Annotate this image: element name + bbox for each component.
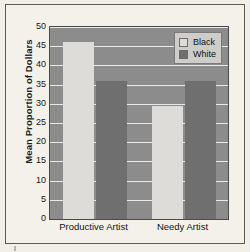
chart-figure: Mean Proportion of Dollars 0510152025303… [0, 0, 250, 252]
plot-area: BlackWhite [49, 26, 229, 220]
x-axis-tick-label: Needy Artist [157, 221, 208, 232]
y-axis-tick-label: 35 [22, 79, 46, 88]
legend-item-black: Black [179, 36, 216, 48]
bar-white-1 [185, 81, 216, 219]
chart-legend: BlackWhite [174, 32, 222, 64]
x-axis-tick-label: Productive Artist [59, 221, 128, 232]
y-axis-tick-label: 30 [22, 98, 46, 107]
y-axis-tick-label: 15 [22, 156, 46, 165]
bar-black-0 [63, 42, 94, 219]
y-axis-tick-label: 45 [22, 41, 46, 50]
legend-swatch-icon [179, 50, 188, 59]
legend-item-white: White [179, 48, 216, 60]
x-axis-tick-labels: Productive ArtistNeedy Artist [49, 221, 229, 237]
y-axis-tick-label: 50 [22, 22, 46, 31]
legend-label: Black [193, 38, 215, 47]
y-axis-tick-labels: 05101520253035404550 [22, 20, 46, 220]
gridline [50, 27, 228, 28]
bar-white-0 [96, 81, 127, 219]
legend-label: White [193, 50, 216, 59]
legend-swatch-icon [179, 38, 188, 47]
scan-artifact [14, 246, 16, 251]
y-axis-tick-label: 0 [22, 214, 46, 223]
y-axis-tick-label: 40 [22, 60, 46, 69]
y-axis-tick-label: 10 [22, 175, 46, 184]
y-axis-tick-label: 5 [22, 194, 46, 203]
bar-black-1 [152, 106, 183, 219]
y-axis-tick-label: 25 [22, 118, 46, 127]
y-axis-tick-label: 20 [22, 137, 46, 146]
